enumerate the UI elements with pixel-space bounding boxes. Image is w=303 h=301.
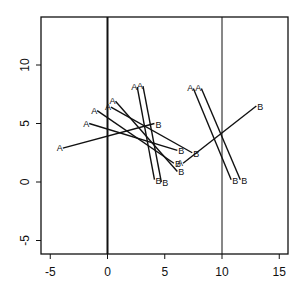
segment-line	[193, 88, 231, 179]
y-axis: -50510	[18, 58, 41, 246]
point-label-a: A	[83, 119, 89, 129]
x-axis: -5051015	[45, 254, 286, 279]
point-label-b: B	[232, 176, 238, 186]
segment-line	[201, 88, 240, 179]
y-tick-label: 10	[18, 58, 32, 72]
segment-plot: ABABABABABABABABABAB -5051015 -50510	[0, 0, 303, 301]
point-label-a: A	[137, 81, 143, 91]
point-label-a: A	[195, 83, 201, 93]
segment: AB	[131, 82, 161, 185]
x-tick-label: 15	[273, 265, 287, 279]
point-label-b: B	[257, 102, 263, 112]
x-tick-label: -5	[45, 265, 56, 279]
point-label-a: A	[177, 158, 183, 168]
segment-line	[63, 124, 155, 149]
segment: AB	[187, 83, 238, 185]
x-tick-label: 5	[161, 265, 168, 279]
segments-layer: ABABABABABABABABABAB	[57, 81, 264, 188]
point-label-b: B	[162, 178, 168, 188]
plot-frame	[41, 17, 288, 254]
y-tick-label: 0	[18, 178, 32, 185]
point-label-a: A	[57, 143, 63, 153]
point-label-b: B	[241, 176, 247, 186]
y-tick-label: 5	[18, 120, 32, 127]
point-label-b: B	[155, 120, 161, 130]
segment: AB	[83, 119, 184, 157]
y-tick-label: -5	[18, 235, 32, 246]
point-label-b: B	[178, 167, 184, 177]
segment: AB	[195, 83, 247, 185]
point-label-a: A	[109, 96, 115, 106]
x-tick-label: 10	[215, 265, 229, 279]
segment-line	[183, 106, 256, 163]
x-tick-label: 0	[104, 265, 111, 279]
reference-lines	[108, 17, 223, 254]
point-label-a: A	[91, 106, 97, 116]
segment: AB	[177, 102, 263, 168]
point-label-a: A	[187, 83, 193, 93]
